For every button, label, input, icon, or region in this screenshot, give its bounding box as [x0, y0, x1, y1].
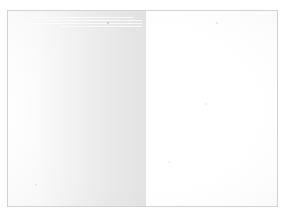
left-page-surface — [8, 11, 146, 206]
right-page-surface — [146, 11, 277, 206]
page-sheet-frame — [7, 10, 278, 207]
document-scan-canvas — [0, 0, 288, 218]
